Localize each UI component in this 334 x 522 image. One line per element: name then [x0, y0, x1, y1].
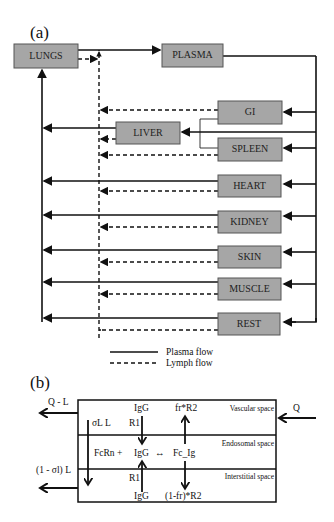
binding-equilibrium-icon: ↔: [155, 448, 165, 458]
legend: Plasma flow Lymph flow: [110, 347, 213, 368]
organ-spleen: SPLEEN: [218, 138, 282, 161]
fc-ig-complex: Fc_Ig: [173, 448, 195, 458]
panel-a-label: (a): [30, 23, 49, 42]
organ-kidney-label: KIDNEY: [230, 216, 268, 227]
organ-gi: GI: [218, 101, 282, 124]
endosomal-space-label: Endosomal space: [222, 439, 275, 448]
organ-skin: SKIN: [218, 246, 281, 268]
organ-heart: HEART: [218, 175, 281, 197]
r1-bottom-label: R1: [129, 473, 140, 483]
legend-plasma-flow: Plasma flow: [166, 347, 213, 357]
igg-endosomal: IgG: [134, 448, 149, 458]
organ-lungs-label: LUNGS: [29, 50, 62, 61]
legend-lymph-flow: Lymph flow: [166, 358, 213, 368]
organ-rest-label: REST: [237, 318, 261, 329]
interstitial-space-label: Interstitial space: [225, 472, 275, 481]
organ-plasma: PLASMA: [162, 44, 223, 67]
organ-muscle-label: MUSCLE: [229, 283, 270, 294]
lymph-outflow-label: (1 - σl) L: [36, 465, 71, 476]
organ-liver: LIVER: [116, 122, 180, 144]
organ-heart-label: HEART: [233, 180, 266, 191]
fcrn-label: FcRn +: [94, 448, 122, 458]
organ-spleen-label: SPLEEN: [232, 143, 269, 154]
panel-b-label: (b): [30, 373, 50, 392]
organ-rest: REST: [218, 313, 280, 335]
sigma-l-label: σL L: [92, 418, 111, 428]
q-minus-l-label: Q - L: [48, 397, 69, 407]
organ-liver-label: LIVER: [133, 127, 163, 138]
vascular-space-label: Vascular space: [230, 404, 275, 413]
organ-gi-label: GI: [245, 106, 256, 117]
pbpk-diagram: (a) LUNGS PLASMA: [0, 0, 334, 522]
igg-interstitial: IgG: [134, 491, 149, 501]
organ-kidney: KIDNEY: [218, 211, 281, 233]
fr-r2-label: fr*R2: [175, 403, 197, 413]
organ-lungs: LUNGS: [14, 44, 78, 68]
organ-plasma-label: PLASMA: [172, 49, 213, 60]
r1-top-label: R1: [129, 418, 140, 428]
organ-muscle: MUSCLE: [218, 278, 281, 300]
organ-skin-label: SKIN: [238, 251, 261, 262]
igg-vascular: IgG: [134, 403, 149, 413]
q-label: Q: [293, 403, 300, 413]
one-minus-fr-r2-label: (1-fr)*R2: [165, 491, 202, 502]
